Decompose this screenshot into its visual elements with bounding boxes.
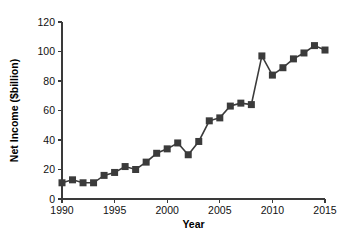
y-tick-label: 0 [49, 193, 55, 205]
x-tick-label: 1995 [103, 204, 127, 216]
chart-container: 020406080100120 199019952000200520102015… [0, 0, 347, 242]
data-point-marker [237, 100, 244, 107]
data-point-marker [90, 179, 97, 186]
data-point-marker [153, 150, 160, 157]
data-point-marker [122, 163, 129, 170]
data-point-marker [227, 103, 234, 110]
data-point-marker [206, 117, 213, 124]
x-tick-label: 2010 [261, 204, 285, 216]
y-tick-label: 120 [37, 16, 55, 28]
data-point-marker [80, 179, 87, 186]
data-point-marker [279, 64, 286, 71]
x-tick-label: 2015 [313, 204, 337, 216]
y-axis-ticks: 020406080100120 [37, 16, 62, 205]
x-tick-label: 2000 [156, 204, 180, 216]
data-point-marker [269, 72, 276, 79]
x-tick-label: 1990 [50, 204, 74, 216]
x-axis-ticks: 199019952000200520102015 [50, 199, 337, 216]
data-point-marker [101, 172, 108, 179]
y-tick-label: 40 [43, 134, 55, 146]
data-point-marker [185, 151, 192, 158]
data-point-marker [290, 55, 297, 62]
data-point-marker [111, 169, 118, 176]
data-point-marker [258, 52, 265, 59]
data-point-marker [216, 114, 223, 121]
y-axis-title: Net Income ($billion) [8, 59, 20, 162]
data-point-marker [164, 145, 171, 152]
data-point-marker [132, 166, 139, 173]
x-tick-label: 2005 [208, 204, 232, 216]
data-point-marker [248, 101, 255, 108]
y-tick-label: 80 [43, 75, 55, 87]
data-point-marker [322, 47, 329, 54]
y-tick-label: 100 [37, 45, 55, 57]
data-point-marker [69, 176, 76, 183]
data-point-marker [143, 159, 150, 166]
y-tick-label: 20 [43, 163, 55, 175]
data-point-marker [59, 179, 66, 186]
data-point-marker [174, 139, 181, 146]
data-point-marker [311, 42, 318, 49]
net-income-line-chart: 020406080100120 199019952000200520102015… [0, 0, 347, 242]
data-point-marker [195, 138, 202, 145]
x-axis-title: Year [182, 218, 204, 230]
data-point-marker [300, 49, 307, 56]
y-tick-label: 60 [43, 104, 55, 116]
